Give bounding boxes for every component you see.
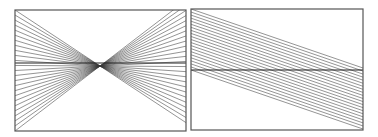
parallel-line <box>191 18 363 77</box>
parallel-line <box>191 40 363 99</box>
parallel-line <box>191 21 363 80</box>
parallel-line <box>191 46 363 105</box>
parallel-lines-panel <box>191 9 363 130</box>
parallel-line <box>191 58 363 117</box>
parallel-line <box>191 70 363 129</box>
parallel-line <box>191 9 363 68</box>
parallel-line <box>191 43 363 102</box>
parallel-line <box>191 49 363 108</box>
converging-lines <box>15 0 186 131</box>
parallel-line <box>191 27 363 86</box>
parallel-line <box>191 36 363 95</box>
parallel-line <box>191 55 363 114</box>
parallel-line <box>191 52 363 111</box>
parallel-line <box>191 12 363 71</box>
parallel-line <box>191 15 363 74</box>
converging-lines-panel <box>15 0 186 131</box>
parallel-line <box>191 30 363 89</box>
parallel-line <box>191 33 363 92</box>
parallel-sloped-lines <box>191 9 363 129</box>
parallel-line <box>191 64 363 123</box>
parallel-line <box>191 24 363 83</box>
left-panel-frame <box>15 10 186 131</box>
parallel-line <box>191 67 363 126</box>
